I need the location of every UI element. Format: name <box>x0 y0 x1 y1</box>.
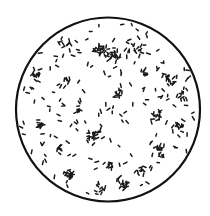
bacterium-rod <box>99 50 101 51</box>
bacterium-rod <box>87 62 88 66</box>
bacterium-rod <box>192 117 194 120</box>
bacterium-rod <box>119 163 120 166</box>
bacterium-rod <box>22 134 25 135</box>
bacterium-rod <box>100 51 101 54</box>
bacterium-rod <box>62 46 65 47</box>
bacterium-rod <box>166 99 168 100</box>
bacterium-rod <box>145 75 147 76</box>
bacterium-rod <box>64 86 66 88</box>
bacterium-rod <box>119 181 120 183</box>
bacterium-rod <box>99 43 100 46</box>
bacterium-rod <box>178 96 181 98</box>
bacterium-rod <box>110 57 112 59</box>
bacterium-rod <box>178 127 179 130</box>
bacterium-rod <box>93 133 94 136</box>
bacterium-rod <box>181 131 184 132</box>
bacterium-rod <box>91 66 93 67</box>
bacterium-rod <box>26 92 29 93</box>
bacterium-rod <box>95 191 97 192</box>
bacterium-rod <box>114 67 117 69</box>
microscope-field-figure <box>0 0 210 216</box>
bacterium-rod <box>146 32 147 34</box>
bacterium-rod <box>89 158 92 159</box>
bacterium-rod <box>140 52 143 53</box>
bacterium-rod <box>96 194 99 195</box>
bacterium-rod <box>71 175 75 176</box>
bacterium-rod <box>178 135 180 137</box>
bacterium-rod <box>34 79 36 81</box>
bacterium-rod <box>137 47 139 49</box>
bacterium-rod <box>170 83 174 84</box>
bacterium-rod <box>86 39 88 40</box>
bacterium-rod <box>140 44 142 47</box>
bacterium-rod <box>134 49 135 52</box>
bacterium-rod <box>77 120 78 123</box>
bacterium-rod <box>47 106 50 107</box>
bacterium-rod <box>104 71 105 75</box>
bacterium-rod <box>59 99 60 101</box>
bacterium-rod <box>187 76 190 79</box>
bacterium-rod <box>157 66 158 69</box>
bacterium-rod <box>124 111 127 113</box>
bacterium-rod <box>143 89 144 92</box>
bacterium-rod <box>69 49 70 52</box>
bacterium-rod <box>136 29 138 31</box>
bacterium-rod <box>162 89 164 91</box>
bacterium-rod <box>184 98 185 100</box>
bacterium-rod <box>54 175 55 179</box>
bacterium-rod <box>68 154 70 155</box>
bacterium-rod <box>162 73 166 74</box>
bacterium-rod <box>23 121 24 124</box>
bacterium-rod <box>68 170 71 171</box>
bacterium-rod <box>186 97 187 100</box>
bacterium-rod <box>159 156 161 157</box>
bacterium-rod <box>140 170 144 171</box>
bacterium-rod <box>24 87 25 90</box>
bacterium-rod <box>143 173 144 176</box>
bacterium-rod <box>78 101 80 104</box>
bacterium-rod <box>75 41 77 43</box>
bacterium-rod <box>101 192 102 194</box>
bacterium-rod <box>33 67 34 70</box>
bacterium-rod <box>78 80 80 83</box>
bacterium-rod <box>143 166 146 167</box>
bacterium-rod <box>105 56 109 57</box>
bacterium-rod <box>20 126 23 128</box>
bacterium-rod <box>54 56 57 57</box>
bacterium-rod <box>182 119 185 121</box>
bacterium-rod <box>161 147 162 150</box>
bacterium-rod <box>31 150 32 154</box>
bacterium-rod <box>156 134 157 136</box>
bacterium-rod <box>67 43 69 46</box>
bacterium-rod <box>160 144 161 147</box>
bacterium-rod <box>172 125 174 128</box>
bacterium-rod <box>83 90 85 93</box>
bacterium-rod <box>57 114 60 116</box>
bacterium-rod <box>100 127 101 130</box>
bacterium-rod <box>67 177 71 178</box>
bacterium-rod <box>77 49 80 50</box>
bacterium-rod <box>140 185 142 186</box>
bacterium-rod <box>126 42 128 43</box>
bacterium-rod <box>66 181 67 183</box>
bacterium-rod <box>61 37 62 39</box>
bacterium-rod <box>157 49 159 51</box>
bacterium-rod <box>173 105 176 107</box>
bacterium-rod <box>130 83 132 86</box>
bacterium-rod <box>146 182 149 184</box>
bacterium-rod <box>62 42 64 45</box>
bacterium-rod <box>70 124 72 126</box>
bacterium-rod <box>45 154 46 156</box>
bacterium-rod <box>113 106 114 108</box>
bacterium-rod <box>86 193 88 194</box>
bacterium-rod <box>73 154 76 156</box>
bacterium-rod <box>119 94 120 98</box>
bacterium-rod <box>42 161 43 164</box>
bacterium-rod <box>38 69 42 70</box>
bacterium-rod <box>109 162 112 163</box>
bacterium-rod <box>124 162 127 164</box>
bacterium-rod <box>184 87 185 89</box>
bacterium-rod <box>192 112 194 113</box>
bacterium-rod <box>159 152 160 154</box>
bacterium-rod <box>128 39 131 40</box>
